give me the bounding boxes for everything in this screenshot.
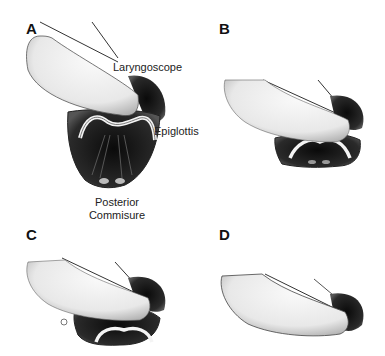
panel-label-c: C <box>26 226 37 243</box>
laryngoscope-label: Laryngoscope <box>113 61 182 74</box>
posterior-commisure-label: Posterior Commisure <box>82 196 152 222</box>
laryngoscopy-diagram <box>0 0 385 356</box>
posterior-commisure-line1: Posterior <box>82 196 152 209</box>
panel-a-illustration <box>27 22 166 188</box>
panel-c-illustration <box>27 258 165 345</box>
posterior-commisure-line2: Commisure <box>82 209 152 222</box>
epiglottis-label: Epiglottis <box>154 125 199 138</box>
panel-label-a: A <box>26 20 37 37</box>
panel-label-d: D <box>219 226 230 243</box>
panel-d-illustration <box>221 274 363 336</box>
panel-b-illustration <box>224 80 363 167</box>
panel-label-b: B <box>219 20 230 37</box>
